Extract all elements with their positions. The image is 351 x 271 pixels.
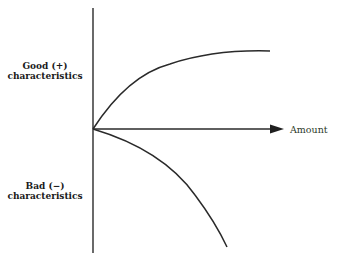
diagram: Good (+) characteristics Bad (−) charact… [0,0,351,271]
diagram-svg [0,0,351,271]
good-label-line2: characteristics [0,71,90,81]
good-label-line1: Good (+) [0,61,90,71]
x-axis-arrowhead-icon [270,125,284,134]
bad-characteristics-label: Bad (−) characteristics [0,181,90,201]
bad-label-line1: Bad (−) [0,181,90,191]
bad-label-line2: characteristics [0,191,90,201]
x-axis-label: Amount [290,124,328,135]
bad-characteristics-curve [93,129,227,247]
good-characteristics-label: Good (+) characteristics [0,61,90,81]
good-characteristics-curve [93,51,270,129]
